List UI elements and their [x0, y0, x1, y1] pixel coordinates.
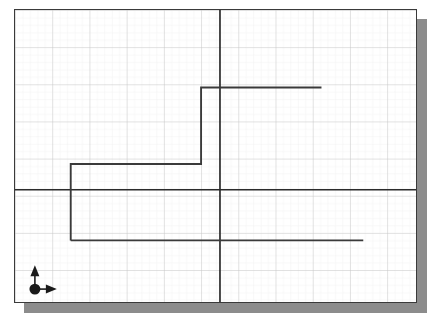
origin-right-arrowhead — [46, 285, 57, 294]
origin-dot — [29, 284, 40, 295]
graph-paper-figure — [0, 0, 440, 327]
origin-marker — [15, 10, 416, 302]
origin-up-arrowhead — [30, 265, 39, 276]
plot-frame — [14, 9, 417, 303]
